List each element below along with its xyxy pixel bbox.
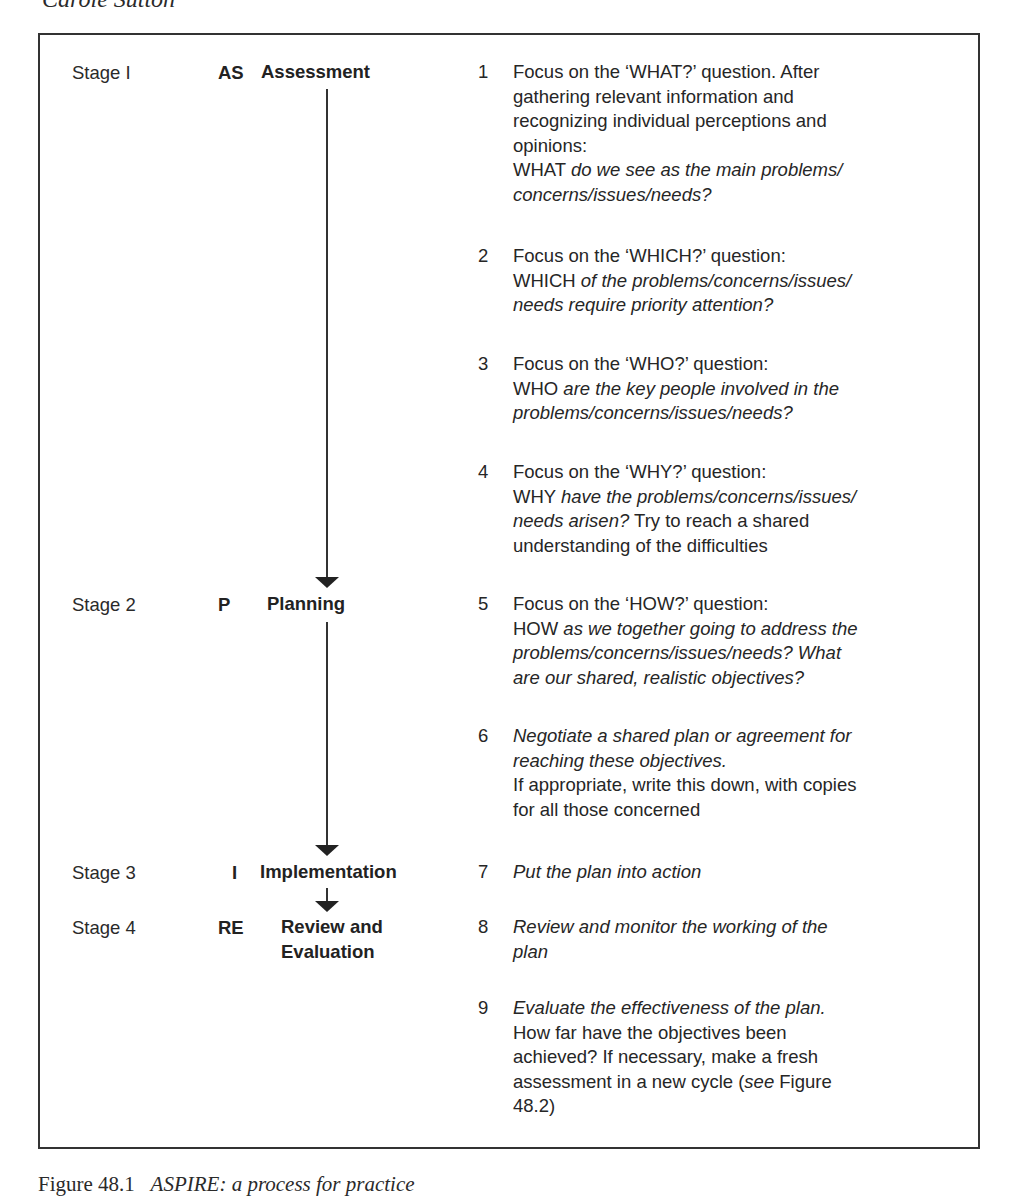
- text-segment: WHY: [513, 486, 561, 507]
- stage-3-name: Implementation: [260, 859, 397, 884]
- step-3: 3Focus on the ‘WHO?’ question:WHO are th…: [478, 352, 948, 426]
- text-segment: Figure: [774, 1071, 832, 1092]
- step-text-line: for all those concerned: [513, 798, 948, 823]
- step-number: 8: [478, 915, 488, 940]
- step-text-line: are our shared, realistic objectives?: [513, 666, 948, 691]
- step-text: Focus on the ‘WHY?’ question:WHY have th…: [513, 460, 948, 558]
- italic-segment: as we together going to address the: [563, 618, 857, 639]
- step-text-line: Focus on the ‘WHAT?’ question. After: [513, 60, 948, 85]
- text-segment: Focus on the ‘WHO?’ question:: [513, 353, 768, 374]
- text-segment: assessment in a new cycle (: [513, 1071, 744, 1092]
- italic-segment: of the problems/concerns/issues/: [581, 270, 851, 291]
- text-segment: If appropriate, write this down, with co…: [513, 774, 856, 795]
- arrow-line-assessment-to-planning: [326, 89, 328, 577]
- stage-4-code: RE: [218, 917, 244, 939]
- step-text: Negotiate a shared plan or agreement for…: [513, 724, 948, 822]
- italic-segment: see: [744, 1071, 774, 1092]
- step-text-line: Focus on the ‘WHY?’ question:: [513, 460, 948, 485]
- step-9: 9Evaluate the effectiveness of the plan.…: [478, 996, 948, 1119]
- text-segment: Focus on the ‘WHY?’ question:: [513, 461, 766, 482]
- step-number: 9: [478, 996, 488, 1021]
- stage-2-name: Planning: [267, 591, 345, 616]
- stage-4-name-line1: Review and: [281, 914, 383, 939]
- italic-segment: problems/concerns/issues/needs? What: [513, 642, 841, 663]
- italic-segment: do we see as the main problems/: [571, 159, 842, 180]
- arrow-line-implementation-to-review: [326, 888, 328, 902]
- arrow-line-planning-to-implementation: [326, 622, 328, 845]
- stage-1-label: Stage I: [72, 62, 131, 84]
- step-text-line: understanding of the difficulties: [513, 534, 948, 559]
- text-segment: Focus on the ‘WHAT?’ question. After: [513, 61, 819, 82]
- step-text-line: gathering relevant information and: [513, 85, 948, 110]
- text-segment: Focus on the ‘WHICH?’ question:: [513, 245, 786, 266]
- text-segment: WHO: [513, 378, 563, 399]
- step-text-line: WHAT do we see as the main problems/: [513, 158, 948, 183]
- step-text-line: plan: [513, 940, 948, 965]
- text-segment: WHAT: [513, 159, 571, 180]
- italic-segment: needs arisen?: [513, 510, 629, 531]
- step-text-line: Focus on the ‘WHICH?’ question:: [513, 244, 948, 269]
- step-text-line: WHICH of the problems/concerns/issues/: [513, 269, 948, 294]
- italic-segment: have the problems/concerns/issues/: [561, 486, 856, 507]
- step-4: 4Focus on the ‘WHY?’ question:WHY have t…: [478, 460, 948, 558]
- step-number: 5: [478, 592, 488, 617]
- step-text-line: 48.2): [513, 1094, 948, 1119]
- italic-segment: reaching these objectives.: [513, 750, 727, 771]
- text-segment: How far have the objectives been: [513, 1022, 787, 1043]
- step-text-line: problems/concerns/issues/needs? What: [513, 641, 948, 666]
- step-text-line: needs require priority attention?: [513, 293, 948, 318]
- step-number: 3: [478, 352, 488, 377]
- step-text-line: reaching these objectives.: [513, 749, 948, 774]
- italic-segment: concerns/issues/needs?: [513, 184, 711, 205]
- step-text: Focus on the ‘WHO?’ question:WHO are the…: [513, 352, 948, 426]
- text-segment: HOW: [513, 618, 563, 639]
- step-text-line: problems/concerns/issues/needs?: [513, 401, 948, 426]
- step-text-line: Review and monitor the working of the: [513, 915, 948, 940]
- step-text-line: If appropriate, write this down, with co…: [513, 773, 948, 798]
- text-segment: understanding of the difficulties: [513, 535, 768, 556]
- step-number: 6: [478, 724, 488, 749]
- step-text-line: HOW as we together going to address the: [513, 617, 948, 642]
- step-text-line: Negotiate a shared plan or agreement for: [513, 724, 948, 749]
- italic-segment: problems/concerns/issues/needs?: [513, 402, 793, 423]
- step-text: Focus on the ‘HOW?’ question:HOW as we t…: [513, 592, 948, 690]
- step-text-line: Put the plan into action: [513, 860, 948, 885]
- step-8: 8Review and monitor the working of thepl…: [478, 915, 948, 964]
- step-6: 6Negotiate a shared plan or agreement fo…: [478, 724, 948, 822]
- stage-3-label: Stage 3: [72, 862, 136, 884]
- arrow-down-icon: [315, 845, 339, 856]
- text-segment: Try to reach a shared: [629, 510, 809, 531]
- step-7: 7Put the plan into action: [478, 860, 948, 885]
- italic-segment: Put the plan into action: [513, 861, 701, 882]
- step-text-line: needs arisen? Try to reach a shared: [513, 509, 948, 534]
- figure-caption-label: Figure 48.1: [38, 1172, 135, 1196]
- step-5: 5Focus on the ‘HOW?’ question:HOW as we …: [478, 592, 948, 690]
- step-text-line: Focus on the ‘HOW?’ question:: [513, 592, 948, 617]
- step-text: Focus on the ‘WHICH?’ question:WHICH of …: [513, 244, 948, 318]
- step-text: Evaluate the effectiveness of the plan.H…: [513, 996, 948, 1119]
- italic-segment: Review and monitor the working of the: [513, 916, 828, 937]
- stage-4-label: Stage 4: [72, 917, 136, 939]
- arrow-down-icon: [315, 901, 339, 912]
- italic-segment: are the key people involved in the: [563, 378, 839, 399]
- stage-4-name-line2: Evaluation: [281, 939, 375, 964]
- step-text: Focus on the ‘WHAT?’ question. Aftergath…: [513, 60, 948, 207]
- stage-1-code: AS: [218, 62, 244, 84]
- stage-2-label: Stage 2: [72, 594, 136, 616]
- stage-3-code: I: [232, 862, 237, 884]
- text-segment: 48.2): [513, 1095, 555, 1116]
- italic-segment: Negotiate a shared plan or agreement for: [513, 725, 851, 746]
- text-segment: for all those concerned: [513, 799, 700, 820]
- text-segment: recognizing individual perceptions and: [513, 110, 827, 131]
- step-number: 7: [478, 860, 488, 885]
- step-number: 4: [478, 460, 488, 485]
- step-text-line: WHO are the key people involved in the: [513, 377, 948, 402]
- step-text-line: How far have the objectives been: [513, 1021, 948, 1046]
- step-text: Put the plan into action: [513, 860, 948, 885]
- italic-segment: Evaluate the effectiveness of the plan.: [513, 997, 826, 1018]
- italic-segment: needs require priority attention?: [513, 294, 773, 315]
- text-segment: WHICH: [513, 270, 581, 291]
- figure-caption: Figure 48.1 ASPIRE: a process for practi…: [38, 1172, 415, 1197]
- italic-segment: plan: [513, 941, 548, 962]
- step-text-line: WHY have the problems/concerns/issues/: [513, 485, 948, 510]
